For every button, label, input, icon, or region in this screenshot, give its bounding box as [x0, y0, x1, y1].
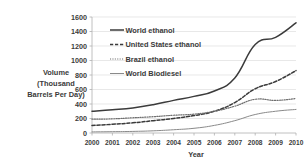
- series-line-3: [92, 109, 296, 131]
- y-axis-tick-labels: 02004006008001000120014001600: [71, 13, 87, 138]
- x-tick-label: 2001: [105, 139, 120, 146]
- chart-legend: World ethanolUnited States ethanolBrazil…: [110, 26, 201, 78]
- x-tick-label: 2004: [166, 139, 181, 146]
- chart-canvas: 02004006008001000120014001600 2000200120…: [0, 0, 305, 164]
- series-line-1: [92, 71, 296, 126]
- legend-label-3: World Biodiesel: [126, 69, 182, 78]
- line-chart: 02004006008001000120014001600 2000200120…: [0, 0, 305, 164]
- series-line-0: [92, 23, 296, 111]
- legend-label-0: World ethanol: [126, 26, 175, 35]
- legend-label-1: United States ethanol: [126, 40, 202, 49]
- y-tick-label: 1400: [71, 27, 87, 36]
- y-tick-label: 400: [75, 100, 87, 109]
- x-axis-tick-labels: 2000200120022003200420052006200720082009…: [85, 139, 304, 146]
- x-tick-label: 2000: [85, 139, 100, 146]
- x-tick-label: 2007: [227, 139, 242, 146]
- legend-label-2: Brazil ethanol: [126, 55, 174, 64]
- y-tick-label: 200: [75, 114, 87, 123]
- data-series: [92, 23, 296, 132]
- y-tick-label: 0: [83, 129, 87, 138]
- y-tick-label: 800: [75, 71, 87, 80]
- x-tick-label: 2008: [248, 139, 263, 146]
- y-tick-label: 1200: [71, 42, 87, 51]
- y-tick-label: 1600: [71, 13, 87, 22]
- axis-ticks: [90, 17, 297, 136]
- x-tick-label: 2002: [125, 139, 140, 146]
- y-axis-title-line-2: (Thousand: [37, 79, 75, 88]
- y-tick-label: 1000: [71, 56, 87, 65]
- x-tick-label: 2010: [289, 139, 304, 146]
- x-axis-title: Year: [188, 150, 204, 159]
- x-tick-label: 2009: [268, 139, 283, 146]
- y-axis-title-line-1: Volume: [43, 68, 69, 77]
- gridlines: [92, 17, 296, 119]
- y-axis-title-line-3: Barrels Per Day): [27, 90, 85, 99]
- x-tick-label: 2003: [146, 139, 161, 146]
- x-tick-label: 2006: [207, 139, 222, 146]
- x-tick-label: 2005: [187, 139, 202, 146]
